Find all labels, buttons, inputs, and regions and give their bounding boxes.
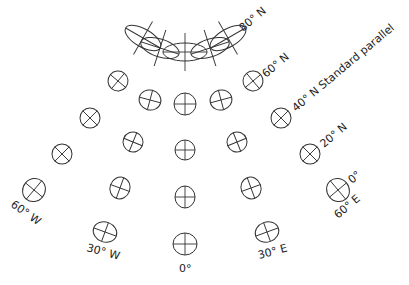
label-40n-standard-parallel: 40° N Standard parallel xyxy=(290,21,397,114)
tissot-ellipse xyxy=(174,93,196,115)
tissot-ellipse xyxy=(163,33,207,71)
tissot-ellipse xyxy=(48,140,76,168)
tissot-ellipse xyxy=(208,87,234,112)
label-30e: 30° E xyxy=(256,242,288,262)
tissot-ellipse xyxy=(107,174,133,202)
tissot-ellipse xyxy=(18,174,50,207)
tissot-ellipse xyxy=(90,218,119,245)
tissot-ellipse xyxy=(267,104,295,132)
label-80n: 80° N xyxy=(237,4,269,34)
tissot-indicatrix-diagram: 80° N 60° N 40° N Standard parallel 20° … xyxy=(0,0,409,285)
label-20n: 20° N xyxy=(318,120,350,150)
label-30w: 30° W xyxy=(85,241,121,262)
tissot-ellipse xyxy=(175,140,195,160)
tissot-ellipse xyxy=(238,174,264,202)
tissot-ellipse xyxy=(104,67,132,95)
label-60n: 60° N xyxy=(260,50,292,80)
tissot-ellipse xyxy=(224,129,250,155)
tissot-ellipse xyxy=(116,12,170,65)
label-lat-0: 0° xyxy=(346,168,364,186)
tissot-ellipse xyxy=(135,24,185,73)
label-lon-0: 0° xyxy=(179,262,192,275)
tissot-ellipse xyxy=(173,233,197,255)
label-60e: 60° E xyxy=(332,192,363,221)
tissot-ellipse xyxy=(252,218,281,245)
tissot-ellipse xyxy=(76,104,104,132)
tissot-ellipse xyxy=(175,186,195,208)
label-60w: 60° W xyxy=(8,198,43,228)
tissot-ellipse xyxy=(120,129,146,155)
indicatrix-group xyxy=(18,12,354,255)
tissot-ellipse xyxy=(137,87,163,112)
